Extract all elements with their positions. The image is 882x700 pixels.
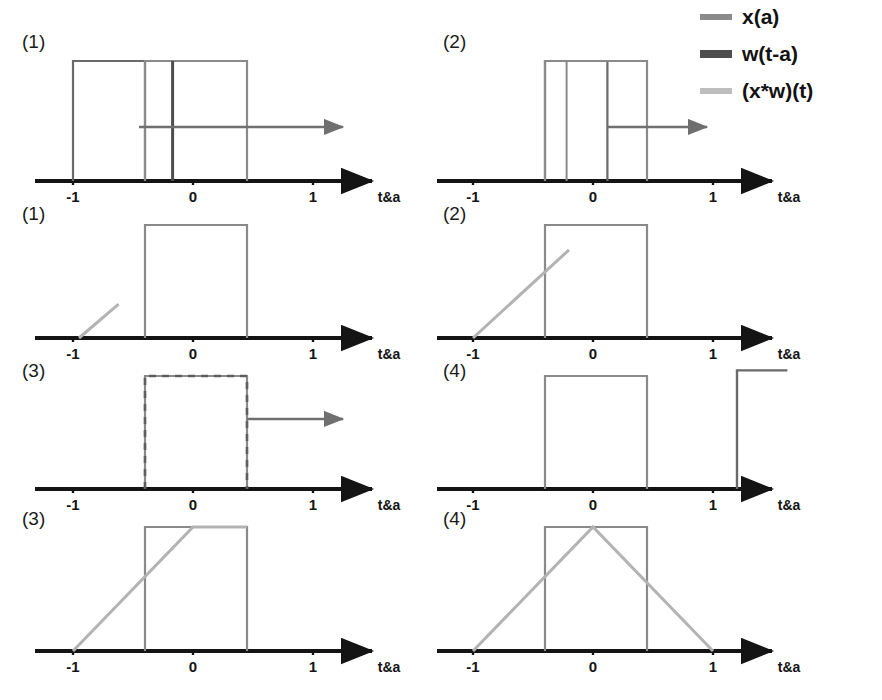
legend: x(a)w(t-a)(x*w)(t) [700,5,813,102]
axis-name-label: t&a [778,497,801,513]
axis-name-label: t&a [778,346,801,362]
axis-tick-label: 0 [189,345,197,362]
x-pulse [545,225,647,338]
axis-name-label: t&a [378,346,401,362]
axis-name-label: t&a [378,659,401,675]
w-pulse-edge [737,370,787,489]
axis-tick-label: -1 [466,658,479,675]
axis-tick-label: 1 [309,496,317,513]
axis-tick-label: -1 [466,188,479,205]
axis-tick-label: 0 [189,496,197,513]
convolution-figure: -101t&a-101t&a-101t&a-101t&a-101t&a-101t… [0,0,882,700]
axis-group-r3c2: -101t&a [437,488,800,513]
axis-tick-label: 0 [189,658,197,675]
conv-ramp [79,304,119,338]
conv-ramp [473,250,569,338]
w-pulse-dashed [145,376,247,489]
panel-r2c1: (1) [22,203,247,338]
panel-r2c2: (2) [443,203,647,338]
axis-tick-label: 1 [709,345,717,362]
axis-tick-label: -1 [66,658,79,675]
axis-tick-label: 0 [589,496,597,513]
axis-tick-label: -1 [66,188,79,205]
panel-label: (2) [443,203,466,224]
axis-group-r3c1: -101t&a [35,488,400,513]
axis-name-label: t&a [778,659,801,675]
panel-label: (1) [22,31,45,52]
axis-tick-label: 1 [309,658,317,675]
axis-name-label: t&a [378,497,401,513]
axis-tick-label: 1 [709,496,717,513]
axis-group-r4c1: -101t&a [35,650,400,675]
axis-name-label: t&a [378,189,401,205]
panel-label: (2) [443,31,466,52]
axis-tick-label: -1 [66,345,79,362]
panel-r4c2: (4) [443,508,713,651]
panel-label: (4) [443,508,466,529]
axis-tick-label: 0 [189,188,197,205]
axis-tick-label: 1 [709,188,717,205]
legend-label-0: x(a) [742,5,779,28]
panel-label: (1) [22,203,45,224]
panel-label: (4) [443,360,466,381]
w-pulse [545,61,607,181]
axis-tick-label: 0 [589,345,597,362]
axis-tick-label: -1 [66,496,79,513]
panel-label: (3) [22,508,45,529]
panel-r4c1: (3) [22,508,247,651]
panel-r3c2: (4) [443,360,787,489]
panel-label: (3) [22,360,45,381]
axis-tick-label: 0 [589,188,597,205]
axis-group-r2c1: -101t&a [35,337,400,362]
legend-label-2: (x*w)(t) [742,79,813,102]
x-pulse [545,527,647,651]
conv-triangle [473,527,713,651]
panel-r3c1: (3) [22,360,343,489]
axis-group-r1c1: -101t&a [35,180,400,205]
x-pulse [145,225,247,338]
axis-tick-label: 1 [309,345,317,362]
panel-r1c1: (1) [22,31,343,181]
axis-name-label: t&a [778,189,801,205]
legend-label-1: w(t-a) [741,42,798,65]
axis-tick-label: -1 [466,496,479,513]
x-pulse [145,527,247,651]
axis-tick-label: 1 [709,658,717,675]
x-pulse [545,376,647,489]
panel-r1c2: (2) [443,31,707,181]
axis-group-r1c2: -101t&a [437,180,800,205]
axis-tick-label: 1 [309,188,317,205]
figure-canvas: -101t&a-101t&a-101t&a-101t&a-101t&a-101t… [0,0,882,700]
w-pulse [73,61,145,181]
axis-tick-label: -1 [466,345,479,362]
x-pulse [545,61,647,181]
axis-tick-label: 0 [589,658,597,675]
axis-group-r4c2: -101t&a [437,650,800,675]
x-pulse [145,61,247,181]
axis-group-r2c2: -101t&a [437,337,800,362]
conv-ramp [73,527,247,651]
x-pulse [145,376,247,489]
